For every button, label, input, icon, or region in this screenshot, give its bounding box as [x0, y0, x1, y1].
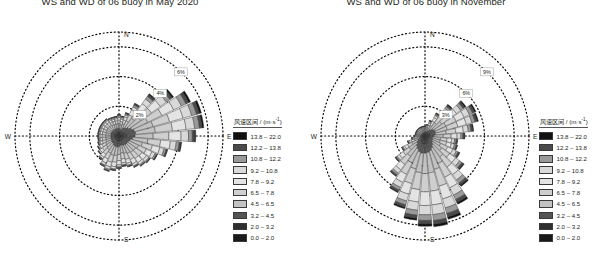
legend-item[interactable]: 7.8 – 9.2 — [539, 176, 612, 187]
ring-label: 4% — [154, 89, 167, 97]
wind-rose-left-svg: NESW2%4%6% — [0, 10, 238, 258]
legend-swatch — [539, 166, 553, 174]
ring-label-text: 4% — [156, 90, 164, 96]
legend-item[interactable]: 9.2 – 10.8 — [233, 164, 309, 175]
rose-sector — [181, 131, 189, 142]
legend-item[interactable]: 3.2 – 4.5 — [233, 210, 309, 221]
legend-item[interactable]: 10.8 – 12.2 — [233, 153, 309, 164]
legend-swatch — [539, 212, 553, 220]
legend-swatch — [539, 234, 553, 242]
legend-swatch — [233, 166, 247, 174]
legend-item[interactable]: 10.8 – 12.2 — [539, 153, 612, 164]
legend-left-items: 13.8 – 22.012.2 – 13.810.8 – 12.29.2 – 1… — [233, 131, 309, 244]
legend-item[interactable]: 12.2 – 13.8 — [539, 142, 612, 153]
legend-item[interactable]: 6.5 – 7.8 — [233, 187, 309, 198]
legend-label: 7.8 – 9.2 — [251, 178, 275, 185]
legend-right-title: 风速区间 / (m·s-1) — [539, 116, 588, 128]
legend-swatch — [539, 178, 553, 186]
legend-label: 10.8 – 12.2 — [251, 155, 282, 162]
legend-label: 6.5 – 7.8 — [557, 189, 581, 196]
rose-sector — [153, 132, 169, 140]
legend-swatch — [539, 155, 553, 163]
wind-rose-right: NESW3%6%9% — [306, 10, 544, 258]
rose-sectors — [97, 89, 203, 172]
legend-label: 3.2 – 4.5 — [251, 212, 275, 219]
legend-item[interactable]: 7.8 – 9.2 — [233, 176, 309, 187]
legend-label: 12.2 – 13.8 — [251, 144, 282, 151]
rose-sector — [192, 130, 194, 142]
rose-sector — [418, 215, 431, 221]
legend-swatch — [233, 234, 247, 242]
cardinal-e: E — [227, 133, 232, 140]
ring-label-text: 6% — [462, 90, 470, 96]
legend-item[interactable]: 3.2 – 4.5 — [539, 210, 612, 221]
legend-item[interactable]: 13.8 – 22.0 — [233, 131, 309, 142]
ring-label-text: 6% — [177, 69, 185, 75]
cardinal-n: N — [124, 31, 129, 38]
rose-sector — [461, 133, 463, 139]
legend-label: 9.2 – 10.8 — [557, 167, 584, 174]
legend-item[interactable]: 2.0 – 3.2 — [539, 221, 612, 232]
legend-item[interactable]: 12.2 – 13.8 — [233, 142, 309, 153]
ring-label-text: 2% — [136, 112, 144, 118]
legend-label: 3.2 – 4.5 — [557, 212, 581, 219]
legend-item[interactable]: 0.0 – 2.0 — [233, 232, 309, 243]
cardinal-w: W — [311, 133, 318, 140]
rose-sector — [117, 165, 122, 167]
legend-item[interactable]: 0.0 – 2.0 — [539, 232, 612, 243]
wind-rose-right-svg: NESW3%6%9% — [306, 10, 544, 258]
legend-unit-exponent: -1 — [582, 117, 586, 122]
legend-swatch — [233, 189, 247, 197]
rose-sector — [443, 134, 451, 138]
rose-sector — [188, 130, 192, 141]
legend-label: 12.2 – 13.8 — [557, 144, 588, 151]
rose-sector — [457, 133, 461, 139]
legend-swatch — [539, 200, 553, 208]
legend-swatch — [233, 200, 247, 208]
rose-sector — [421, 174, 430, 192]
legend-swatch — [233, 212, 247, 220]
legend-label: 13.8 – 22.0 — [251, 133, 282, 140]
ring-label-text: 3% — [442, 112, 450, 118]
legend-swatch — [539, 223, 553, 231]
legend-left-title: 风速区间 / (m·s-1) — [233, 116, 282, 128]
panel-right-title: WS and WD of 06 buoy in November — [306, 0, 546, 7]
ring-label: 6% — [174, 68, 187, 76]
legend-right-items: 13.8 – 22.012.2 – 13.810.8 – 12.29.2 – 1… — [539, 131, 612, 244]
legend-swatch — [233, 223, 247, 231]
legend-swatch — [539, 144, 553, 152]
legend-item[interactable]: 4.5 – 6.5 — [539, 198, 612, 209]
legend-label: 6.5 – 7.8 — [251, 189, 275, 196]
rose-sector — [117, 161, 121, 165]
rose-sector — [169, 131, 181, 141]
legend-swatch — [233, 155, 247, 163]
legend-item[interactable]: 9.2 – 10.8 — [539, 164, 612, 175]
rose-sector — [418, 220, 432, 224]
rose-sector — [408, 188, 419, 202]
legend-label: 13.8 – 22.0 — [557, 133, 588, 140]
rose-sector — [451, 134, 457, 139]
rose-sector — [420, 192, 431, 206]
cardinal-s: S — [124, 236, 129, 243]
legend-label: 10.8 – 12.2 — [557, 155, 588, 162]
legend-label: 2.0 – 3.2 — [557, 223, 581, 230]
legend-label: 2.0 – 3.2 — [251, 223, 275, 230]
wind-rose-left: NESW2%4%6% — [0, 10, 238, 258]
legend-unit-exponent: -1 — [276, 117, 280, 122]
ring-label: 2% — [133, 111, 146, 119]
legend-label: 4.5 – 6.5 — [251, 200, 275, 207]
legend-label: 7.8 – 9.2 — [557, 178, 581, 185]
legend-swatch — [233, 178, 247, 186]
rose-sector — [464, 133, 465, 139]
legend-swatch — [539, 132, 553, 140]
legend-left: 风速区间 / (m·s-1) 13.8 – 22.012.2 – 13.810.… — [233, 116, 309, 244]
legend-item[interactable]: 2.0 – 3.2 — [233, 221, 309, 232]
cardinal-w: W — [5, 133, 12, 140]
ring-label: 9% — [480, 68, 493, 76]
legend-swatch — [233, 132, 247, 140]
cardinal-e: E — [533, 133, 538, 140]
legend-item[interactable]: 13.8 – 22.0 — [539, 131, 612, 142]
legend-item[interactable]: 4.5 – 6.5 — [233, 198, 309, 209]
rose-sector — [117, 154, 121, 160]
legend-item[interactable]: 6.5 – 7.8 — [539, 187, 612, 198]
